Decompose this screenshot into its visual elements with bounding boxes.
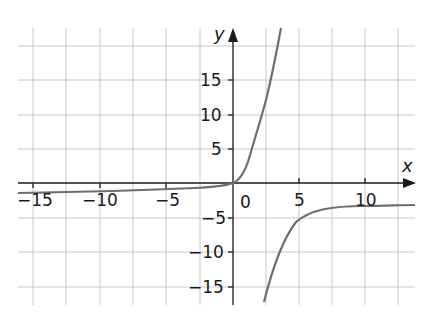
- x-axis-arrow-icon: [403, 178, 416, 188]
- y-tick-label: 15: [200, 70, 222, 90]
- y-tick-label: −10: [188, 242, 224, 262]
- curve-left-branch: [18, 28, 281, 193]
- y-tick-label: 10: [200, 105, 222, 125]
- x-tick-label: −5: [155, 190, 180, 210]
- origin-label: 0: [240, 192, 251, 212]
- y-tick-label: −5: [201, 208, 226, 228]
- x-tick-label: −15: [17, 190, 53, 210]
- y-tick-label: −15: [188, 277, 224, 297]
- x-tick-label: 10: [355, 190, 377, 210]
- x-tick-label: −10: [82, 190, 118, 210]
- y-tick-label: 5: [211, 139, 222, 159]
- y-axis: [228, 38, 233, 305]
- y-axis-label: y: [213, 23, 225, 44]
- x-tick-label: 5: [294, 190, 305, 210]
- x-axis-label: x: [401, 155, 413, 176]
- y-axis-arrow-icon: [228, 28, 238, 42]
- chart-canvas: y x −15 −10 −5 0 5 10 15 10 5 −5 −10 −15: [0, 0, 426, 320]
